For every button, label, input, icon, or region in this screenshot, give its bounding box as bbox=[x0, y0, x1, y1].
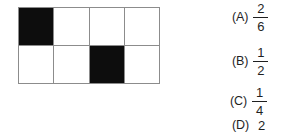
grid-cell-r1c3 bbox=[90, 8, 124, 45]
answer-option-d-label: (D) bbox=[232, 119, 249, 132]
answer-option-b-denominator: 2 bbox=[256, 64, 265, 78]
question-canvas: (A) 2 6 (B) 1 2 (C) 1 4 (D) bbox=[0, 0, 294, 139]
fraction-bar-icon bbox=[253, 61, 268, 62]
answer-options-list: (A) 2 6 (B) 1 2 (C) 1 4 (D) bbox=[228, 0, 294, 139]
grid-cell-r2c4 bbox=[125, 46, 159, 83]
answer-option-b-numerator: 1 bbox=[256, 46, 265, 60]
answer-option-c-label: (C) bbox=[230, 95, 247, 108]
answer-option-a-numerator: 2 bbox=[256, 2, 265, 16]
answer-option-b-fraction: 1 2 bbox=[253, 46, 268, 77]
answer-option-d[interactable]: (D) 2 bbox=[232, 119, 265, 132]
answer-option-d-value: 2 bbox=[258, 119, 265, 132]
answer-option-b[interactable]: (B) 1 2 bbox=[232, 46, 268, 77]
answer-option-a[interactable]: (A) 2 6 bbox=[232, 2, 268, 33]
answer-option-c-fraction: 1 4 bbox=[252, 86, 267, 117]
grid-cell-r1c1 bbox=[19, 8, 53, 45]
answer-option-c-denominator: 4 bbox=[255, 104, 264, 118]
fraction-bar-icon bbox=[252, 101, 267, 102]
answer-option-a-fraction: 2 6 bbox=[253, 2, 268, 33]
grid-cell-r2c1 bbox=[19, 46, 53, 83]
grid-cell-r2c3 bbox=[90, 46, 124, 83]
grid-cell-r1c2 bbox=[54, 8, 88, 45]
answer-option-b-label: (B) bbox=[232, 55, 248, 68]
answer-option-a-denominator: 6 bbox=[256, 20, 265, 34]
shaded-grid-figure bbox=[18, 7, 160, 84]
grid-container bbox=[18, 7, 160, 84]
answer-option-a-label: (A) bbox=[232, 11, 248, 24]
grid-cell-r1c4 bbox=[125, 8, 159, 45]
answer-option-c-numerator: 1 bbox=[255, 86, 264, 100]
grid-cell-r2c2 bbox=[54, 46, 88, 83]
fraction-bar-icon bbox=[253, 17, 268, 18]
answer-option-c[interactable]: (C) 1 4 bbox=[230, 86, 267, 117]
